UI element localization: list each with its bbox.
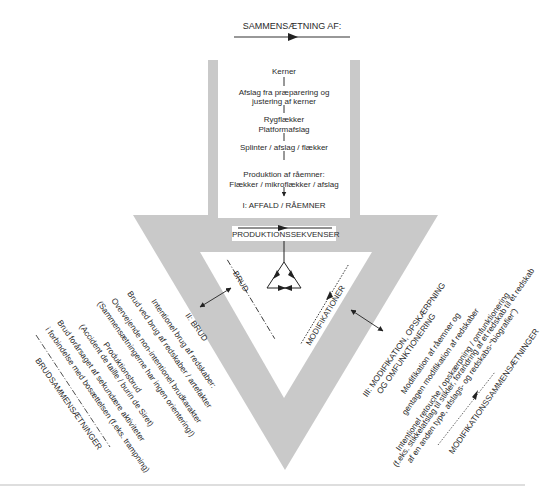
box-item-afslag-2: justering af kerner: [218, 97, 350, 106]
box-item-afslag-1: Afslag fra præparering og: [218, 88, 350, 97]
box-item-kerner: Kerner: [218, 67, 350, 76]
box-item-flaekker: Flækker / mikroflækker / afslag: [218, 180, 350, 189]
box-item-rygflaekker: Rygflækker: [218, 115, 350, 124]
production-label: PRODUKTIONSSEKVENSER: [232, 231, 336, 239]
box-item-produktion: Produktion af råemner:: [218, 170, 350, 179]
box-item-splinter: Splinter / afslag / flækker: [218, 143, 350, 152]
box-item-affald: I: AFFALD / RÅEMNER: [218, 201, 350, 210]
header-arrow: [234, 33, 350, 41]
header-title: SAMMENSÆTNING AF:: [232, 22, 352, 31]
box-item-platformafslag: Platformafslag: [218, 125, 350, 134]
